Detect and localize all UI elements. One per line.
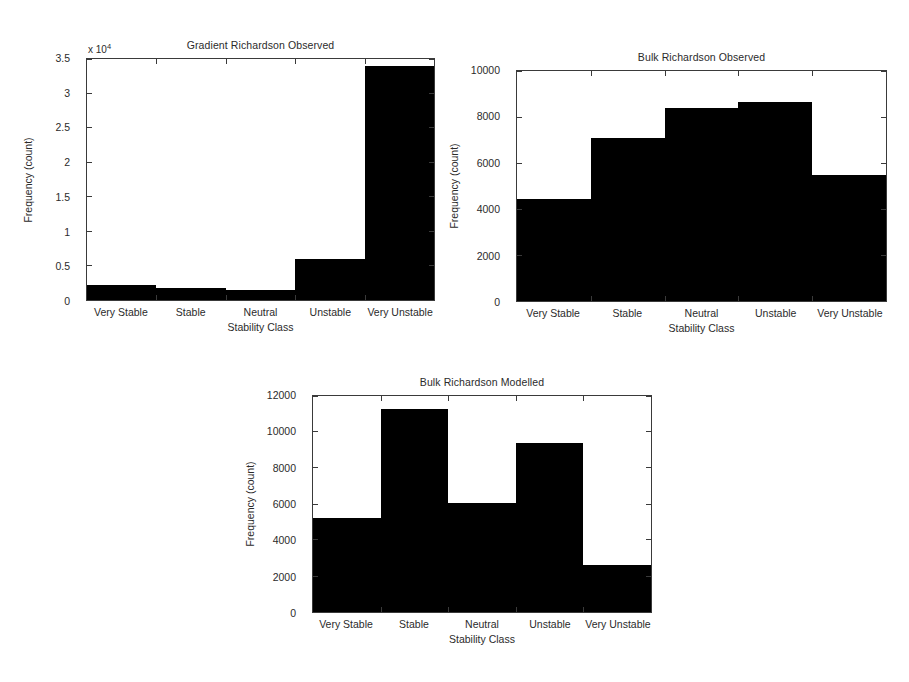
- x-tick-label: Neutral: [226, 306, 296, 318]
- chart-bulk-richardson-observed: Bulk Richardson Observed Frequency (coun…: [516, 70, 887, 302]
- chart-title: Gradient Richardson Observed: [86, 39, 435, 51]
- x-tick-mark-bottom: [516, 607, 517, 612]
- y-tick-label: 6000: [477, 157, 500, 168]
- bar-very-stable: [87, 285, 156, 300]
- y-tick-mark-right: [646, 396, 651, 397]
- plot-area: [312, 395, 652, 613]
- x-tick-mark-bottom: [738, 296, 739, 301]
- y-tick-mark-right: [646, 539, 651, 540]
- y-tick-mark: [313, 504, 318, 505]
- y-tick-label: 4000: [273, 535, 296, 546]
- y-tick-mark: [87, 196, 92, 197]
- x-tick-label: Stable: [380, 618, 448, 630]
- y-tick-label: 8000: [273, 462, 296, 473]
- plot-area: [516, 70, 887, 302]
- x-tick-mark-bottom: [156, 295, 157, 300]
- y-tick-mark-right: [646, 431, 651, 432]
- y-tick-mark-right: [881, 209, 886, 210]
- y-tick-label: 6000: [273, 499, 296, 510]
- y-tick-mark-right: [429, 196, 434, 197]
- bar-stable: [381, 409, 449, 612]
- y-tick-label: 12000: [267, 390, 296, 401]
- x-tick-mark-bottom: [448, 607, 449, 612]
- bar-unstable: [738, 102, 812, 301]
- y-tick-label: 0: [494, 297, 500, 308]
- x-tick-mark-bottom: [591, 296, 592, 301]
- y-tick-mark: [313, 539, 318, 540]
- y-axis-exponent-power: 4: [107, 42, 111, 51]
- x-tick-label: Very Unstable: [813, 307, 887, 319]
- y-tick-label: 10000: [267, 426, 296, 437]
- y-tick-mark: [517, 117, 522, 118]
- y-tick-label: 2000: [477, 250, 500, 261]
- y-tick-label: 0.5: [55, 261, 70, 272]
- x-tick-mark-bottom: [812, 296, 813, 301]
- y-tick-mark-right: [429, 59, 434, 60]
- y-tick-mark: [517, 301, 522, 302]
- bar-very-stable: [313, 518, 381, 612]
- y-tick-mark-right: [881, 117, 886, 118]
- y-tick-label: 2000: [273, 571, 296, 582]
- bar-very-unstable: [812, 175, 886, 302]
- x-axis-tick-labels: Very StableStableNeutralUnstableVery Uns…: [516, 307, 887, 319]
- x-tick-label: Neutral: [664, 307, 738, 319]
- y-tick-label: 0: [290, 608, 296, 619]
- x-tick-mark-top: [365, 59, 366, 64]
- bar-very-stable: [517, 199, 591, 301]
- x-tick-mark-top: [591, 71, 592, 76]
- x-tick-mark-top: [156, 59, 157, 64]
- x-tick-mark-bottom: [295, 295, 296, 300]
- y-tick-mark: [87, 300, 92, 301]
- y-tick-mark: [313, 612, 318, 613]
- bar-stable: [156, 288, 225, 300]
- y-tick-mark-right: [429, 265, 434, 266]
- x-tick-label: Very Unstable: [365, 306, 435, 318]
- y-tick-label: 2: [64, 157, 70, 168]
- bar-stable: [591, 138, 665, 301]
- x-tick-label: Very Stable: [516, 307, 590, 319]
- y-tick-mark: [517, 255, 522, 256]
- y-tick-mark-right: [881, 71, 886, 72]
- y-tick-mark-right: [881, 255, 886, 256]
- y-tick-label: 1.5: [55, 191, 70, 202]
- y-tick-label: 3.5: [55, 53, 70, 64]
- y-tick-label: 10000: [471, 65, 500, 76]
- y-tick-mark: [87, 231, 92, 232]
- y-tick-mark: [517, 163, 522, 164]
- y-axis-exponent-mantissa: x 10: [88, 44, 107, 55]
- y-tick-mark-right: [429, 231, 434, 232]
- y-tick-mark: [313, 396, 318, 397]
- y-tick-label: 1: [64, 226, 70, 237]
- x-axis-tick-labels: Very StableStableNeutralUnstableVery Uns…: [312, 618, 652, 630]
- x-tick-label: Stable: [156, 306, 226, 318]
- bar-very-unstable: [365, 66, 434, 300]
- y-tick-mark-right: [429, 93, 434, 94]
- bar-unstable: [295, 259, 364, 300]
- bar-series: [87, 59, 434, 300]
- x-tick-label: Very Stable: [86, 306, 156, 318]
- x-tick-mark-top: [381, 396, 382, 401]
- x-axis-title: Stability Class: [312, 633, 652, 645]
- x-tick-mark-bottom: [226, 295, 227, 300]
- x-tick-label: Unstable: [295, 306, 365, 318]
- x-tick-label: Unstable: [516, 618, 584, 630]
- x-tick-label: Very Stable: [312, 618, 380, 630]
- x-axis-title: Stability Class: [86, 321, 435, 333]
- x-axis-title: Stability Class: [516, 322, 887, 334]
- y-tick-mark: [87, 93, 92, 94]
- y-tick-mark: [517, 209, 522, 210]
- x-tick-mark-bottom: [583, 607, 584, 612]
- y-tick-mark: [517, 71, 522, 72]
- x-axis-tick-labels: Very StableStableNeutralUnstableVery Uns…: [86, 306, 435, 318]
- chart-title: Bulk Richardson Observed: [516, 51, 887, 63]
- y-tick-mark: [313, 467, 318, 468]
- y-tick-mark-right: [881, 301, 886, 302]
- y-tick-label: 0: [64, 296, 70, 307]
- x-tick-mark-top: [738, 71, 739, 76]
- x-tick-mark-bottom: [665, 296, 666, 301]
- y-tick-mark-right: [429, 300, 434, 301]
- y-tick-mark: [87, 127, 92, 128]
- bar-series: [517, 71, 886, 301]
- y-tick-mark: [87, 265, 92, 266]
- y-tick-label: 2.5: [55, 122, 70, 133]
